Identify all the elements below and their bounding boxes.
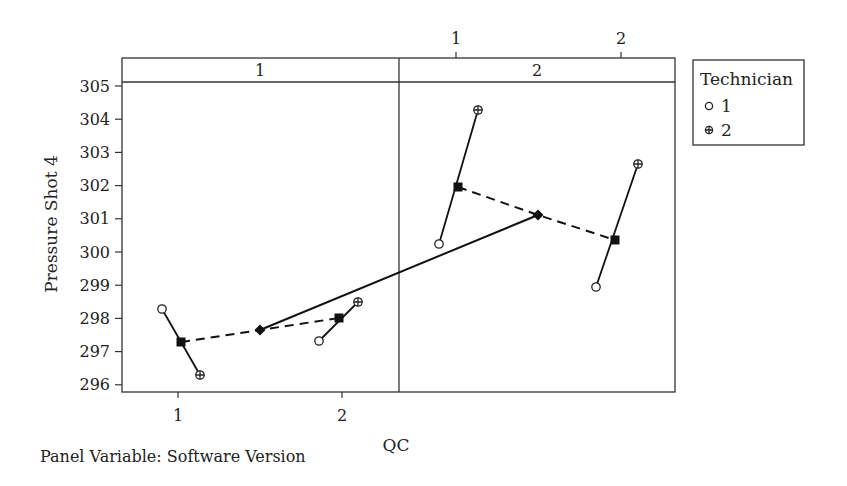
- y-tick-300: 300: [79, 243, 110, 262]
- technician-line: [439, 110, 478, 244]
- qc-mean-markers: [177, 183, 620, 347]
- mean-square: [611, 236, 620, 245]
- panel-1-data: [162, 215, 538, 375]
- point-tech1: [158, 305, 166, 313]
- point-tech2: [354, 298, 362, 306]
- panel-variable-note: Panel Variable: Software Version: [40, 447, 306, 466]
- y-tick-298: 298: [79, 309, 110, 328]
- panel-2-data: [439, 110, 638, 287]
- top-tick-label-2: 2: [616, 29, 626, 48]
- y-tick-302: 302: [79, 176, 110, 195]
- bottom-tick-label-2: 2: [337, 406, 347, 425]
- y-tick-296: 296: [79, 375, 110, 394]
- legend: Technician 1 2: [693, 60, 804, 145]
- top-x-ticks: [456, 52, 621, 58]
- bottom-x-ticks: [178, 392, 342, 398]
- technician-line: [596, 164, 638, 287]
- legend-title: Technician: [700, 69, 793, 89]
- panel-header-1: 1: [255, 61, 265, 80]
- legend-label-1: 1: [721, 96, 732, 116]
- y-tick-303: 303: [79, 143, 110, 162]
- top-tick-label-1: 1: [451, 29, 461, 48]
- legend-open-circle-icon: [705, 102, 712, 109]
- y-tick-304: 304: [79, 110, 110, 129]
- point-tech1: [435, 240, 443, 248]
- y-tick-301: 301: [79, 209, 110, 228]
- y-axis-label: Pressure Shot 4: [41, 155, 61, 293]
- technician-1-markers: [158, 240, 600, 345]
- mean-square: [177, 338, 186, 347]
- point-tech1: [315, 337, 323, 345]
- x-axis-label: QC: [383, 435, 410, 455]
- panel-header-2: 2: [532, 61, 542, 80]
- interaction-chart: 1 2 1 2 305 304 303 302 301 300 299 298 …: [0, 0, 847, 486]
- panel-frames: [122, 58, 675, 392]
- legend-label-2: 2: [721, 120, 732, 140]
- point-tech2: [196, 371, 204, 379]
- y-tick-297: 297: [79, 342, 110, 361]
- y-axis-tick-labels: 305 304 303 302 301 300 299 298 297 296: [79, 77, 110, 394]
- mean-diamond: [533, 210, 544, 221]
- y-axis-ticks: [115, 86, 122, 385]
- y-tick-305: 305: [79, 77, 110, 96]
- point-tech2: [474, 106, 482, 114]
- point-tech2: [634, 160, 642, 168]
- legend-circle-plus-icon: [705, 126, 712, 133]
- bottom-tick-label-1: 1: [173, 406, 183, 425]
- mean-diamond: [255, 325, 266, 336]
- mean-square: [335, 314, 344, 323]
- point-tech1: [592, 283, 600, 291]
- technician-2-markers: [196, 106, 642, 379]
- mean-square: [454, 183, 463, 192]
- y-tick-299: 299: [79, 276, 110, 295]
